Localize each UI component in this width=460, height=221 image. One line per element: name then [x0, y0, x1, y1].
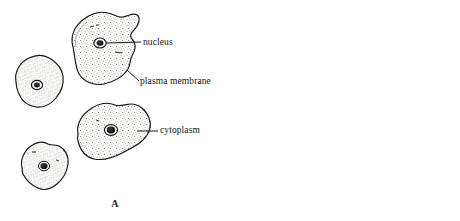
cell-membrane-outline — [72, 12, 139, 84]
label-cytoplasm: cytoplasm — [160, 125, 200, 135]
cell-lower-left — [21, 142, 68, 189]
cell-left — [16, 55, 64, 107]
figure-root: nucleus plasma membrane cytoplasm A — [0, 0, 460, 221]
panel-a-caption: A — [0, 198, 230, 209]
leader-line-plasma-membrane — [127, 70, 139, 81]
panel-b-micrograph: B — [230, 0, 460, 221]
panel-a-artwork — [0, 0, 230, 221]
cell-upper-large — [72, 12, 139, 84]
label-nucleus: nucleus — [143, 37, 173, 47]
label-plasma-membrane: plasma membrane — [140, 76, 211, 86]
panel-a-line-drawing: nucleus plasma membrane cytoplasm A — [0, 0, 230, 221]
